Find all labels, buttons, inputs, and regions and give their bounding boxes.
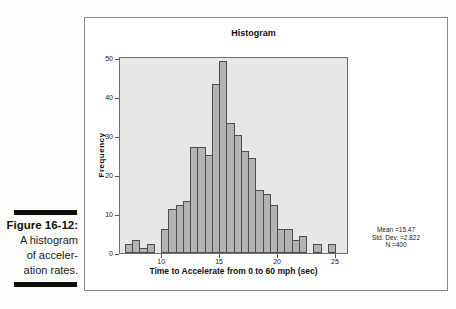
stats-n: N =400	[361, 241, 431, 249]
x-axis-label: Time to Accelerate from 0 to 60 mph (sec…	[119, 266, 348, 276]
x-tick-label: 10	[151, 258, 171, 265]
figure-caption-text: of acceler-	[2, 249, 78, 262]
y-tick-label: 40	[85, 94, 113, 101]
histogram-bar	[328, 244, 336, 253]
y-tick-label: 30	[85, 133, 113, 140]
y-tick-mark	[115, 215, 119, 216]
scanned-figure-page: Figure 16-12: A histogram of acceler- at…	[0, 0, 456, 309]
x-tick-label: 25	[325, 258, 345, 265]
stats-mean: Mean =15.47	[361, 226, 431, 234]
stats-annotation: Mean =15.47 Std. Dev. =2.822 N =400	[361, 226, 431, 249]
figure-box: Histogram Frequency Time to Accelerate f…	[84, 17, 448, 291]
y-tick-mark	[115, 59, 119, 60]
figure-caption-label: Figure 16-12:	[2, 219, 78, 232]
x-tick-label: 15	[209, 258, 229, 265]
y-tick-label: 50	[85, 55, 113, 62]
y-tick-label: 20	[85, 172, 113, 179]
y-tick-label: 0	[85, 250, 113, 257]
y-tick-mark	[115, 98, 119, 99]
histogram-bar	[299, 236, 307, 253]
plot-area	[119, 57, 348, 254]
y-tick-mark	[115, 254, 119, 255]
figure-caption-text: A histogram	[2, 234, 78, 247]
y-tick-mark	[115, 176, 119, 177]
histogram-bar	[313, 244, 321, 253]
stats-stddev: Std. Dev. =2.822	[361, 234, 431, 242]
y-tick-label: 10	[85, 211, 113, 218]
chart-title: Histogram	[139, 28, 368, 38]
histogram-bars	[125, 58, 337, 253]
y-tick-mark	[115, 137, 119, 138]
figure-caption-text: ation rates.	[2, 264, 78, 277]
histogram-bar	[147, 244, 155, 253]
figure-caption: Figure 16-12: A histogram of acceler- at…	[0, 0, 80, 309]
caption-divider-bottom	[14, 282, 77, 287]
x-tick-label: 20	[267, 258, 287, 265]
caption-divider-top	[14, 210, 77, 215]
